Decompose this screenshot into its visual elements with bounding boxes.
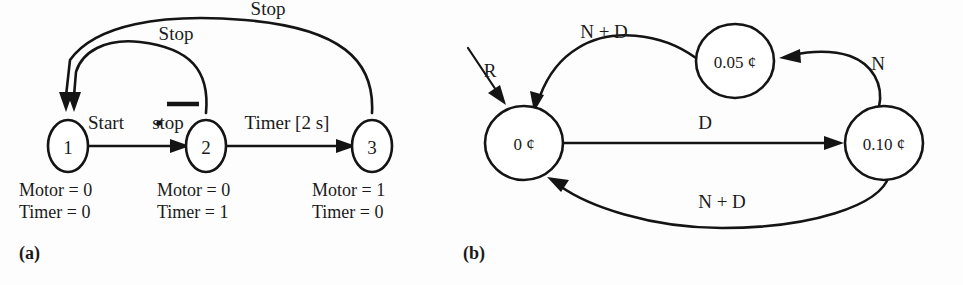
diagram-a-svg: Stop Stop Start stop Timer [2	[0, 0, 470, 285]
state-2-outputs: Motor = 0 Timer = 1	[157, 180, 230, 222]
state-1-outputs: Motor = 0 Timer = 0	[19, 180, 92, 222]
state-node-zero-cent-label: 0 ¢	[513, 135, 534, 154]
edge-ten-to-five-arrowhead	[779, 49, 801, 63]
edge-1-to-2: Start stop	[88, 104, 199, 153]
state-node-1-label: 1	[63, 137, 73, 158]
diagram-b-svg: R N + D D N	[460, 0, 963, 285]
edge-zero-to-ten-arrowhead	[824, 136, 844, 150]
figure-root: Stop Stop Start stop Timer [2	[0, 0, 963, 285]
edge-ten-to-zero: N + D	[547, 176, 889, 228]
edge-five-to-zero: N + D	[530, 21, 696, 112]
edge-2-to-3: Timer [2 s]	[223, 112, 356, 153]
state-node-2[interactable]: 2	[186, 120, 226, 172]
panel-b-caption: (b)	[463, 243, 485, 264]
edge-label-n-plus-d-top: N + D	[580, 21, 628, 42]
state-node-1[interactable]: 1	[48, 120, 88, 172]
edge-label-n-plus-d-bottom: N + D	[698, 191, 746, 212]
state-2-output-motor: Motor = 0	[157, 180, 230, 200]
edge-reset-to-zero: R	[468, 48, 506, 105]
edge-label-stop-inner: Stop	[159, 23, 194, 44]
edge-label-start: Start	[88, 112, 125, 133]
edge-ten-to-five-path	[794, 52, 880, 107]
state-node-3[interactable]: 3	[352, 120, 392, 172]
state-node-five-cent-label: 0.05 ¢	[714, 53, 757, 72]
edge-3-to-1-path	[66, 18, 372, 113]
state-1-output-timer: Timer = 0	[19, 202, 91, 222]
state-node-five-cent[interactable]: 0.05 ¢	[696, 24, 774, 98]
edge-zero-to-ten: D	[563, 112, 844, 150]
panel-a-motor-control: Stop Stop Start stop Timer [2	[0, 0, 470, 285]
edge-ten-to-five: N	[779, 49, 885, 107]
edge-label-reset: R	[484, 60, 497, 81]
edge-reset-arrowhead	[488, 85, 506, 105]
state-3-output-timer: Timer = 0	[312, 202, 384, 222]
state-3-outputs: Motor = 1 Timer = 0	[312, 180, 385, 222]
panel-a-caption: (a)	[19, 243, 40, 264]
edge-label-stop-negated: stop	[152, 112, 184, 133]
edge-label-stop-outer: Stop	[251, 0, 286, 19]
state-2-output-timer: Timer = 1	[157, 202, 229, 222]
edge-3-to-1: Stop	[59, 0, 372, 113]
state-1-output-motor: Motor = 0	[19, 180, 92, 200]
state-node-ten-cent-label: 0.10 ¢	[863, 135, 906, 154]
edge-five-to-zero-path	[540, 35, 696, 96]
edge-label-timer: Timer [2 s]	[245, 112, 330, 133]
edge-2-to-1: Stop	[67, 23, 206, 113]
edge-label-d: D	[698, 112, 712, 133]
panel-b-vending-machine: R N + D D N	[460, 0, 963, 285]
state-3-output-motor: Motor = 1	[312, 180, 385, 200]
edge-label-n: N	[871, 53, 885, 74]
state-node-3-label: 3	[367, 137, 377, 158]
state-node-2-label: 2	[201, 137, 211, 158]
state-node-zero-cent[interactable]: 0 ¢	[485, 106, 563, 180]
state-node-ten-cent[interactable]: 0.10 ¢	[845, 106, 923, 180]
